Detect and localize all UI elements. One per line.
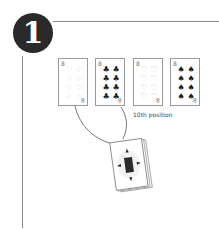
arrows-and-deck [0,0,219,229]
connector-line [121,107,127,139]
face-down-deck [110,138,153,193]
insert-arrow [75,106,121,146]
trick-diagram: 1 8 ♢♢ ♢♢ ♢♢ ♢♢ 8 8 ♣♣ ♣♣ ♣♣ ♣♣ 8 8 ♡♡ ♡… [0,0,219,229]
